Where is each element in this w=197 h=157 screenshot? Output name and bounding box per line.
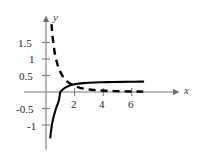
y-tick-label-1-5: 1.5 (18, 38, 32, 49)
y-tick-label-minus-1: -1 (27, 121, 36, 132)
y-tick-label-minus-0-5: -0.5 (16, 104, 33, 115)
x-tick-label-4: 4 (99, 99, 105, 110)
x-tick-label-6: 6 (128, 99, 134, 110)
x-axis-label: x (184, 85, 189, 96)
x-tick-label-2: 2 (71, 99, 77, 110)
y-tick-label-1: 1 (29, 54, 35, 65)
y-axis-label: y (53, 12, 58, 23)
graph-figure: 1.5 1 0.5 -0.5 -1 2 4 6 x y (0, 0, 197, 157)
y-tick-label-0-5: 0.5 (19, 71, 33, 82)
